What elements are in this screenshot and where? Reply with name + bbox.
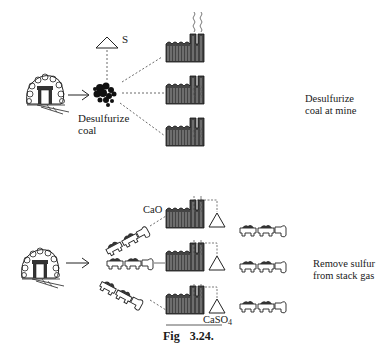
top-power-plant-1 [166, 12, 204, 62]
top-side-label: Desulfurize coal at mine [305, 93, 356, 117]
bottom-power-plant-2 [166, 243, 204, 271]
bottom-power-plant-3 [166, 286, 204, 314]
incoming-train-3 [98, 279, 144, 311]
coal-label: Desulfurize coal [78, 112, 129, 136]
bottom-power-plant-1 [166, 200, 204, 228]
sulfur-triangle-icon [96, 37, 118, 82]
top-arrow-icon [68, 90, 89, 100]
caption-number: 3.24. [190, 329, 214, 343]
incoming-train-2 [107, 258, 153, 270]
outgoing-train-2 [240, 261, 286, 273]
top-power-plant-2 [166, 76, 204, 104]
product-label-sub: 4 [228, 318, 232, 327]
coal-label-line1: Desulfurize [78, 112, 129, 124]
figure-caption: Fig3.24. [163, 329, 214, 344]
top-power-plant-3 [166, 118, 204, 146]
top-side-label-line1: Desulfurize [305, 93, 356, 105]
caption-prefix: Fig [163, 329, 180, 343]
sulfur-label: S [122, 33, 128, 45]
outgoing-train-3 [240, 301, 286, 313]
coal-label-line2: coal [78, 124, 129, 136]
reagent-label: CaO [143, 204, 162, 216]
bottom-mine-icon [22, 248, 65, 288]
product-label-main: CaSO [203, 314, 228, 325]
coal-pile-icon [93, 83, 117, 108]
outgoing-train-1 [240, 225, 286, 237]
top-side-label-line2: coal at mine [305, 105, 356, 117]
incoming-train-1 [104, 225, 150, 257]
bottom-arrow-icon [66, 258, 89, 268]
bottom-side-label-line1: Remove sulfur [313, 258, 375, 270]
bottom-side-label-line2: from stack gas [313, 270, 375, 282]
top-mine-icon [27, 74, 70, 114]
bottom-side-label: Remove sulfur from stack gas [313, 258, 375, 282]
product-label: CaSO4 [203, 314, 232, 329]
